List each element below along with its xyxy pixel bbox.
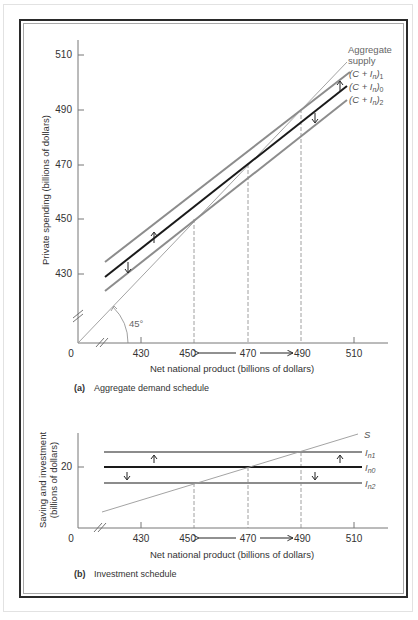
y-tick-430: 430 xyxy=(55,268,72,279)
x-tick-0: 0 xyxy=(68,533,74,544)
x-tick-450: 450 xyxy=(179,348,196,359)
investment-schedule-chart: 20 0 430 450 470 490 510 xyxy=(37,429,388,579)
up-arrow-icon xyxy=(151,455,157,463)
in0-label: In0 xyxy=(365,462,376,474)
aggregate-supply-label-1: Aggregate xyxy=(348,44,392,55)
c-in-2-label: (C + In)2 xyxy=(349,94,384,106)
angle-label: 45° xyxy=(129,318,144,329)
caption-letter: (b) xyxy=(74,569,86,579)
x-tick-510: 510 xyxy=(346,348,363,359)
aggregate-demand-chart: 510 490 470 450 430 0 430 450 470 490 51… xyxy=(40,40,392,393)
x-tick-430: 430 xyxy=(133,533,150,544)
figure-svg: 510 490 470 450 430 0 430 450 470 490 51… xyxy=(0,0,418,620)
y-axis-title: Private spending (billions of dollars) xyxy=(40,115,51,265)
svg-text:(C + In)1: (C + In)1 xyxy=(349,68,384,80)
y-tick-470: 470 xyxy=(55,159,72,170)
aggregate-supply-line xyxy=(78,62,347,343)
x-tick-430: 430 xyxy=(133,348,150,359)
x-tick-470: 470 xyxy=(240,533,257,544)
down-arrow-icon xyxy=(312,113,318,123)
x-tick-450: 450 xyxy=(179,533,196,544)
svg-text:(C + In)0: (C + In)0 xyxy=(349,81,384,93)
x-tick-490: 490 xyxy=(294,348,311,359)
y-axis-title-2: (billions of dollars) xyxy=(48,442,59,519)
x-tick-510: 510 xyxy=(346,533,363,544)
x-axis-title: Net national product (billions of dollar… xyxy=(150,549,314,560)
y-tick-490: 490 xyxy=(55,104,72,115)
c-in-2-line xyxy=(105,100,347,291)
y-axis-title-1: Saving and investment xyxy=(37,432,48,528)
c-in-0-line xyxy=(105,86,347,277)
x-axis-title: Net national product (billions of dollar… xyxy=(150,363,314,374)
down-arrow-icon xyxy=(124,472,130,480)
aggregate-supply-label-2: supply xyxy=(348,55,376,66)
in2-label: In2 xyxy=(365,478,376,490)
y-tick-20: 20 xyxy=(61,461,73,472)
caption-text: Aggregate demand schedule xyxy=(94,383,209,393)
caption-letter: (a) xyxy=(74,383,85,393)
caption-text: Investment schedule xyxy=(94,569,177,579)
y-tick-450: 450 xyxy=(55,213,72,224)
c-in-1-label: (C + In)1 xyxy=(349,68,384,80)
s-label: S xyxy=(364,429,371,440)
up-arrow-icon xyxy=(337,455,343,463)
c-in-1-line xyxy=(105,72,350,262)
x-tick-490: 490 xyxy=(294,533,311,544)
saving-line xyxy=(102,434,358,512)
x-tick-0: 0 xyxy=(68,348,74,359)
y-tick-510: 510 xyxy=(55,49,72,60)
svg-text:(C + In)2: (C + In)2 xyxy=(349,94,384,106)
in1-label: In1 xyxy=(365,447,376,459)
c-in-0-label: (C + In)0 xyxy=(349,81,384,93)
down-arrow-icon xyxy=(312,472,318,480)
x-tick-470: 470 xyxy=(240,348,257,359)
angle-arc xyxy=(113,307,128,343)
